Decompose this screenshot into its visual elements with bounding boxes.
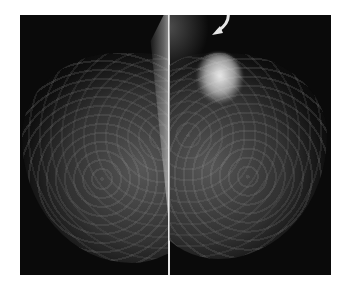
- left-breast-view: [20, 15, 168, 275]
- dense-mass-region: [197, 53, 243, 103]
- right-breast-view: [169, 15, 331, 275]
- right-breast-tissue: [169, 53, 327, 259]
- mammogram-image: [20, 15, 331, 275]
- curved-arrow-icon: [208, 15, 236, 39]
- left-breast-tissue: [22, 53, 168, 263]
